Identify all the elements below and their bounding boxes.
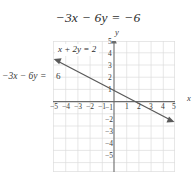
ytick-label: −1 bbox=[105, 104, 113, 112]
x-axis-label: x bbox=[187, 93, 191, 103]
left-equation-label: −3x − 6y = bbox=[2, 71, 46, 81]
xtick-label: 2 bbox=[137, 103, 141, 111]
xtick-label: −2 bbox=[86, 103, 94, 111]
xtick-label: 5 bbox=[172, 103, 176, 111]
line-equation-label: x + 2y = 2 bbox=[55, 44, 99, 56]
ytick-label: 4 bbox=[108, 50, 112, 58]
grid-and-line bbox=[53, 41, 175, 172]
xtick-label: 3 bbox=[149, 103, 153, 111]
ytick-label: 3 bbox=[108, 62, 112, 70]
figure-canvas: −3x − 6y = −6 −3x − 6y = bbox=[0, 0, 196, 176]
figure-title: −3x − 6y = −6 bbox=[0, 10, 196, 26]
ytick-label: 5 bbox=[108, 38, 112, 46]
ytick-label: −3 bbox=[105, 128, 113, 136]
xtick-label: −5 bbox=[50, 103, 58, 111]
xtick-label: −3 bbox=[74, 103, 82, 111]
xtick-label: −4 bbox=[62, 103, 70, 111]
coordinate-plane bbox=[53, 41, 175, 172]
ytick-label: 2 bbox=[108, 74, 112, 82]
y-axis-label: y bbox=[115, 27, 119, 37]
xtick-label: 4 bbox=[161, 103, 165, 111]
ytick-label: −5 bbox=[105, 152, 113, 160]
ytick-label: 1 bbox=[108, 86, 112, 94]
xtick-label: 1 bbox=[125, 103, 129, 111]
intercept-annotation: 6 bbox=[56, 72, 61, 81]
ytick-label: −2 bbox=[105, 116, 113, 124]
ytick-label: −4 bbox=[105, 140, 113, 148]
